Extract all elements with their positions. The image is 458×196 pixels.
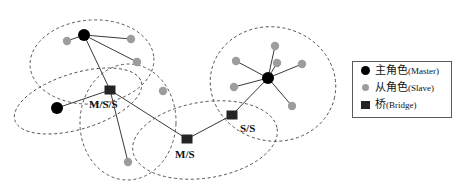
- node-label-b3: S/S: [240, 122, 255, 134]
- node-slave-s1: [63, 37, 71, 45]
- legend-bridge-en: (Bridge): [386, 100, 417, 110]
- node-slave-s8: [273, 59, 281, 67]
- node-slave-s9: [298, 60, 306, 68]
- piconet-lower-mid: [127, 91, 283, 189]
- node-slave-s10: [230, 83, 238, 91]
- node-master-m2: [51, 102, 63, 114]
- node-slave-s5: [124, 158, 132, 166]
- node-slave-s6: [271, 42, 279, 50]
- legend-box: 主角色(Master) 从角色(Slave) 桥(Bridge): [352, 61, 452, 118]
- legend-item-master: 主角色(Master): [353, 62, 451, 79]
- node-bridge-b1: [105, 86, 116, 95]
- slave-circle-icon: [358, 84, 372, 91]
- legend-slave-en: (Slave): [408, 83, 434, 93]
- legend-label-slave: 从角色(Slave): [375, 82, 434, 93]
- node-slave-s2: [127, 35, 135, 43]
- node-slave-s7: [232, 57, 240, 65]
- node-slave-s11: [288, 102, 296, 110]
- node-slave-s3: [133, 58, 141, 66]
- link-m1-b1: [84, 35, 110, 90]
- link-b2-b3: [187, 115, 232, 139]
- legend-master-en: (Master): [408, 66, 439, 76]
- legend-master-cn: 主角色: [375, 64, 408, 76]
- node-label-b1: M/S/S: [89, 98, 118, 110]
- node-master-m1: [78, 29, 90, 41]
- legend-item-slave: 从角色(Slave): [353, 79, 451, 96]
- link-b1-b2: [110, 90, 187, 139]
- node-master-m3: [262, 72, 274, 84]
- link-b3-m3: [232, 78, 268, 115]
- node-bridge-b2: [182, 135, 193, 144]
- legend-label-master: 主角色(Master): [375, 65, 439, 76]
- node-label-b2: M/S: [175, 148, 195, 160]
- legend-slave-cn: 从角色: [375, 81, 408, 93]
- legend-bridge-cn: 桥: [375, 98, 386, 110]
- node-bridge-b3: [227, 111, 238, 120]
- bridge-square-icon: [358, 101, 372, 109]
- legend-item-bridge: 桥(Bridge): [353, 96, 451, 113]
- node-slave-s4: [159, 87, 167, 95]
- master-circle-icon: [358, 66, 372, 75]
- scatternet-figure: M/S/SM/SS/S 主角色(Master) 从角色(Slave) 桥(Bri…: [0, 0, 458, 196]
- legend-label-bridge: 桥(Bridge): [375, 99, 417, 110]
